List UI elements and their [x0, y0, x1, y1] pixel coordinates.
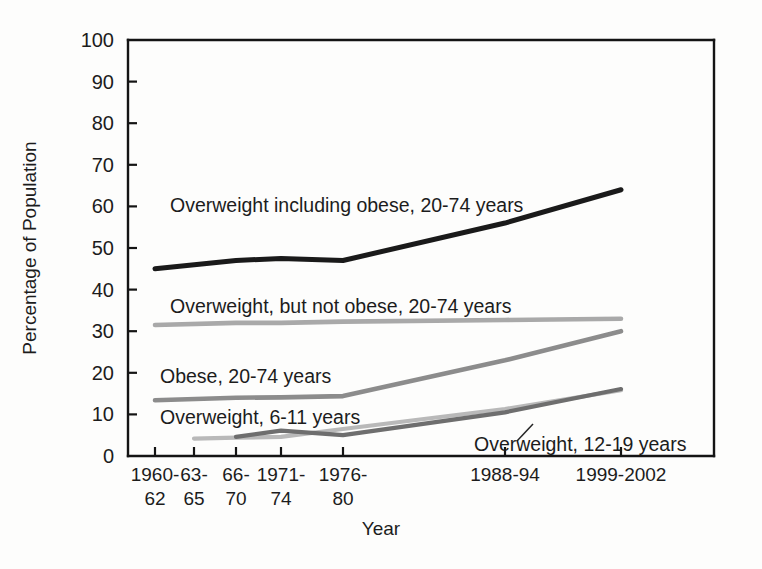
- x-tick-label-63-65-line2: 65: [183, 488, 204, 509]
- x-tick-label-1971-74-line2: 74: [270, 488, 292, 509]
- x-tick-label-1999-2002: 1999-2002: [576, 464, 667, 485]
- y-tick-label-30: 30: [92, 320, 114, 342]
- x-tick-label-1988-94: 1988-94: [470, 464, 540, 485]
- plot-frame: [128, 40, 714, 456]
- y-tick-label-10: 10: [92, 403, 114, 425]
- line-chart-canvas: 0102030405060708090100 1960-6263-6566-70…: [0, 0, 762, 569]
- y-tick-label-60: 60: [92, 195, 114, 217]
- y-tick-label-90: 90: [92, 71, 114, 93]
- series-label-overweight-including-obese-20-74-years: Overweight including obese, 20-74 years: [170, 194, 524, 216]
- x-tick-label-1960-62-line2: 62: [144, 488, 165, 509]
- y-axis-title: Percentage of Population: [19, 141, 40, 354]
- series-label-overweight-6-11-years: Overweight, 6-11 years: [160, 406, 360, 428]
- chart-figure: 0102030405060708090100 1960-6263-6566-70…: [0, 0, 762, 569]
- x-tick-label-1976-80: 1976-: [319, 464, 368, 485]
- y-tick-label-100: 100: [81, 29, 114, 51]
- y-tick-label-0: 0: [103, 445, 114, 467]
- y-tick-label-40: 40: [92, 279, 114, 301]
- series-label-obese-20-74-years: Obese, 20-74 years: [160, 365, 332, 387]
- y-tick-label-70: 70: [92, 154, 114, 176]
- series-line-overweight-but-not-obese-20-74-years: [155, 319, 621, 325]
- x-axis-title: Year: [362, 518, 401, 539]
- y-tick-label-50: 50: [92, 237, 114, 259]
- y-tick-label-20: 20: [92, 362, 114, 384]
- x-tick-label-63-65: 63-: [180, 464, 207, 485]
- x-tick-label-66-70-line2: 70: [225, 488, 246, 509]
- series-label-overweight-12-19-years: Overweight, 12-19 years: [474, 433, 687, 455]
- x-tick-label-1960-62: 1960-: [131, 464, 180, 485]
- series-label-overweight-but-not-obese-20-74-years: Overweight, but not obese, 20-74 years: [170, 295, 512, 317]
- x-tick-label-1971-74: 1971-: [257, 464, 306, 485]
- x-tick-label-66-70: 66-: [222, 464, 249, 485]
- y-tick-label-80: 80: [92, 112, 114, 134]
- x-tick-label-1976-80-line2: 80: [332, 488, 353, 509]
